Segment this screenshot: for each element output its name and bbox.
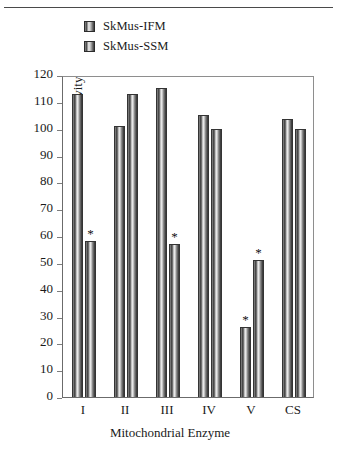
bar-ssm-iii: * — [169, 77, 180, 397]
y-axis-tick-label: 80 — [40, 174, 53, 187]
x-axis-tick-label-iii: III — [161, 402, 174, 418]
bar-rect — [169, 244, 180, 397]
y-axis-tick-label: 0 — [47, 389, 54, 402]
bar-ifm-v: * — [240, 77, 251, 397]
significance-marker: * — [169, 230, 180, 243]
y-axis-tick-label: 30 — [40, 309, 53, 322]
bar-group-i: * — [71, 77, 97, 397]
significance-marker: * — [240, 313, 251, 326]
significance-marker: * — [253, 246, 264, 259]
x-axis-tick-label-ii: II — [121, 402, 130, 418]
bar-rect — [295, 129, 306, 397]
bar-ssm-ii — [127, 77, 138, 397]
x-axis-tick-label-iv: IV — [202, 402, 216, 418]
y-axis-ticks: 0102030405060708090100110120 — [0, 76, 62, 398]
y-axis-tick-label: 50 — [40, 255, 53, 268]
bar-ssm-i: * — [85, 77, 96, 397]
y-axis-tick-label: 10 — [40, 362, 53, 375]
significance-marker: * — [85, 227, 96, 240]
bar-group-v: ** — [239, 77, 265, 397]
y-axis-tick-mark — [57, 398, 62, 399]
x-axis-title: Mitochondrial Enzyme — [0, 425, 340, 441]
bar-rect — [198, 115, 209, 397]
bar-group-ii — [113, 77, 139, 397]
bar-ssm-v: * — [253, 77, 264, 397]
y-axis-tick-label: 100 — [34, 121, 54, 134]
bar-rect — [156, 88, 167, 397]
bar-rect — [72, 94, 83, 397]
y-axis-tick-label: 40 — [40, 282, 53, 295]
plot-area: **** — [62, 76, 314, 398]
bar-group-iv — [197, 77, 223, 397]
y-axis-tick-label: 110 — [34, 94, 53, 107]
bar-ifm-i — [72, 77, 83, 397]
bar-rect — [127, 94, 138, 397]
bar-rect — [240, 327, 251, 397]
bar-ifm-ii — [114, 77, 125, 397]
legend-label-ssm: SkMus-SSM — [103, 39, 169, 54]
y-axis-tick-label: 60 — [40, 228, 53, 241]
bar-ifm-iii — [156, 77, 167, 397]
y-axis-tick-label: 20 — [40, 335, 53, 348]
bars-layer: **** — [63, 77, 313, 397]
chart-legend: SkMus-IFM SkMus-SSM — [84, 18, 244, 58]
bar-ssm-iv — [211, 77, 222, 397]
bar-rect — [85, 241, 96, 397]
bar-rect — [211, 129, 222, 397]
bar-rect — [114, 126, 125, 397]
x-axis-tick-label-cs: CS — [285, 402, 301, 418]
x-axis-tick-labels: IIIIIIIVVCS — [62, 402, 314, 420]
legend-label-ifm: SkMus-IFM — [103, 19, 166, 34]
y-axis-tick-label: 90 — [40, 148, 53, 161]
bar-ifm-iv — [198, 77, 209, 397]
bar-group-iii: * — [155, 77, 181, 397]
top-divider-rule — [4, 7, 333, 8]
y-axis-tick-label: 70 — [40, 201, 53, 214]
bar-ifm-cs — [282, 77, 293, 397]
x-axis-tick-label-i: I — [81, 402, 85, 418]
bar-ssm-cs — [295, 77, 306, 397]
legend-item-ssm: SkMus-SSM — [84, 38, 244, 55]
bar-rect — [282, 119, 293, 397]
x-axis-tick-label-v: V — [246, 402, 255, 418]
bar-rect — [253, 260, 264, 397]
legend-item-ifm: SkMus-IFM — [84, 18, 244, 35]
bar-group-cs — [281, 77, 307, 397]
y-axis-tick-label: 120 — [34, 67, 54, 80]
